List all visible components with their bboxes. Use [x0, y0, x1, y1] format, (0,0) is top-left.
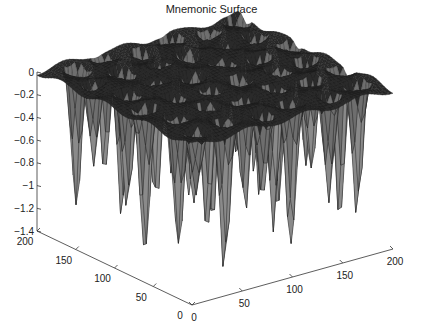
z-tick-label: −0.8: [14, 157, 34, 168]
z-tick-label: −0.2: [14, 89, 34, 100]
y-tick-label: 0: [177, 310, 183, 321]
z-tick-label: −0.4: [14, 112, 34, 123]
x-tick-label: 50: [239, 298, 251, 309]
surface-mesh: [37, 11, 393, 266]
y-tick-label: 150: [55, 255, 72, 266]
z-tick-label: 0: [28, 67, 34, 78]
z-tick-label: −1: [23, 180, 35, 191]
z-tick-label: −1.2: [14, 203, 34, 214]
z-tick-label: −1.4: [14, 226, 34, 237]
x-tick-label: 200: [387, 256, 404, 267]
chart-title: Mnemonic Surface: [0, 3, 423, 15]
x-tick-label: 150: [336, 270, 353, 281]
y-tick-label: 50: [136, 292, 148, 303]
figure: Mnemonic Surface 05010015020005010015020…: [0, 0, 423, 327]
y-tick-label: 100: [94, 273, 111, 284]
y-tick-label: 200: [17, 236, 34, 247]
x-tick-label: 100: [286, 284, 303, 295]
x-tick-label: 0: [191, 312, 197, 323]
surface-plot: 0501001502000501001502000−0.2−0.4−0.6−0.…: [0, 0, 423, 327]
z-tick-label: −0.6: [14, 135, 34, 146]
